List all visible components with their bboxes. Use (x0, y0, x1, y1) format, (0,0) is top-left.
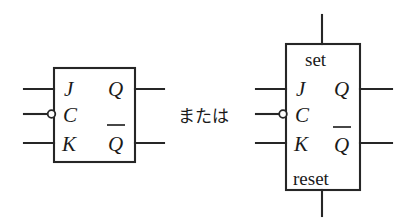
jk-sr-label-qbar: Q (334, 133, 349, 157)
jk-plain-label-qbar-group: Q (107, 125, 125, 156)
jk-sr-label-k: K (293, 132, 309, 156)
jk-sr-label-q: Q (334, 77, 349, 101)
symbol-jk-plain: J C K Q Q (24, 68, 164, 162)
jk-plain-label-j: J (64, 77, 75, 101)
jk-sr-label-c: C (295, 103, 310, 127)
jk-plain-label-q: Q (108, 77, 123, 101)
jk-sr-clock-inversion-bubble (279, 110, 287, 118)
jk-plain-label-qbar: Q (108, 132, 123, 156)
jk-sr-label-set: set (305, 49, 327, 70)
jk-sr-label-qbar-group: Q (333, 127, 351, 157)
flip-flop-diagram-canvas: J C K Q Q または (0, 0, 412, 220)
jk-plain-label-k: K (61, 132, 77, 156)
flip-flop-figure: J C K Q Q または (0, 0, 412, 220)
jk-sr-label-j: J (296, 77, 307, 101)
jk-plain-clock-inversion-bubble (48, 110, 56, 118)
symbol-jk-set-reset: set reset J C K Q Q (256, 15, 392, 216)
jk-sr-label-reset: reset (293, 168, 330, 189)
jk-plain-label-c: C (63, 103, 78, 127)
connector-text-matawa: または (178, 106, 229, 126)
